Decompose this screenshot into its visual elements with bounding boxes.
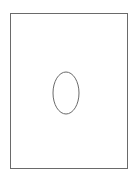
diagram-canvas [0,0,135,178]
ellipse-shape [53,72,79,114]
